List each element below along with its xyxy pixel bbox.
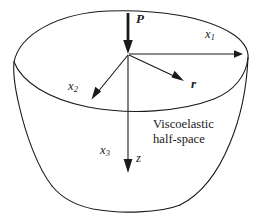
radial-arrow-head (172, 71, 185, 81)
half-space-annotation-line1: Viscoelastic (153, 117, 214, 132)
axis-x3-head (124, 159, 133, 173)
applied-load-arrow (123, 13, 133, 54)
label-axis-x1: x1 (205, 28, 215, 42)
load-arrow-head (123, 40, 133, 54)
label-axis-x2: x2 (68, 80, 78, 94)
body-left-wall (14, 62, 52, 186)
axis-x2-head (92, 87, 102, 100)
body-bottom-curve (52, 186, 180, 212)
label-axis-x2-subscript: 2 (74, 85, 78, 94)
axis-x1-arrow (129, 50, 243, 57)
label-depth-z: z (136, 152, 141, 165)
axis-x3-arrow (124, 55, 133, 173)
radial-arrow-shaft (129, 55, 176, 77)
radial-distance-arrow (129, 55, 184, 81)
half-space-annotation: Viscoelastic half-space (153, 117, 214, 147)
label-axis-x3-subscript: 3 (106, 149, 110, 158)
axis-x2-arrow (92, 55, 129, 100)
label-axis-x3: x3 (100, 144, 110, 158)
label-axis-x1-subscript: 1 (211, 33, 215, 42)
label-applied-load: P (136, 12, 144, 25)
label-radial-distance: r (191, 77, 196, 90)
axis-x2-shaft (97, 55, 128, 93)
label-axis-x3-base: x (100, 143, 106, 157)
viscoelastic-half-space-figure: P x1 x2 r x3 z Viscoelastic half-space (0, 0, 261, 220)
half-space-annotation-line2: half-space (153, 132, 214, 147)
label-axis-x1-base: x (205, 27, 211, 41)
surface-rim-front-arc (14, 58, 248, 111)
figure-line-art (0, 0, 261, 220)
label-axis-x2-base: x (68, 79, 74, 93)
axis-x1-head (234, 50, 243, 57)
